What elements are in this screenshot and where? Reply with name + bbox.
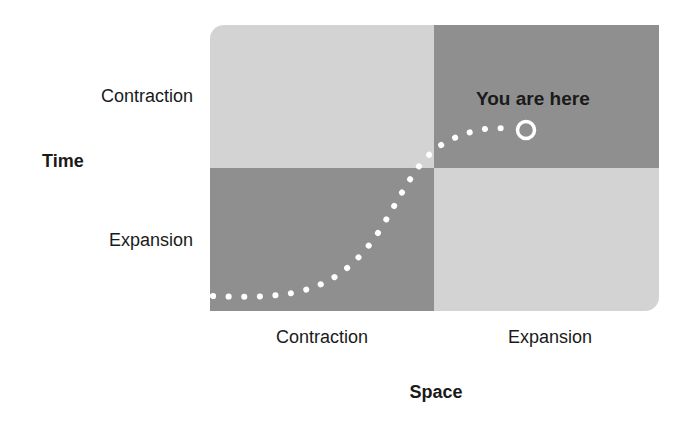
x-tick-expansion: Expansion bbox=[508, 327, 592, 348]
y-tick-expansion: Expansion bbox=[109, 230, 193, 251]
dotted-path bbox=[213, 128, 510, 297]
y-axis-title: Time bbox=[42, 151, 84, 172]
x-tick-contraction: Contraction bbox=[276, 327, 368, 348]
path-overlay bbox=[0, 0, 695, 424]
y-tick-contraction: Contraction bbox=[101, 86, 193, 107]
you-are-here-marker-icon bbox=[518, 122, 535, 139]
marker-label: You are here bbox=[476, 88, 590, 110]
x-axis-title: Space bbox=[409, 382, 462, 403]
